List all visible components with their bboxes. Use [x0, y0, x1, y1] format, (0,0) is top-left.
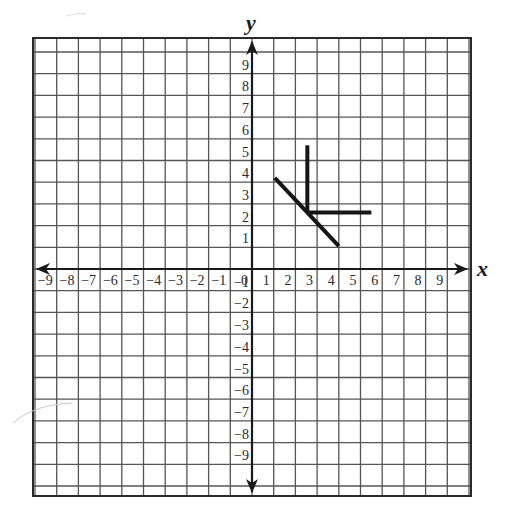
y-tick-label: 1 [242, 231, 249, 246]
pencil-mark [66, 14, 86, 16]
y-tick-label: 4 [242, 166, 249, 181]
x-tick-label: −9 [38, 273, 53, 288]
x-axis-label: x [476, 256, 488, 281]
pencil-stroke [13, 403, 72, 423]
y-tick-label: 8 [242, 79, 249, 94]
y-tick-label: −9 [234, 448, 249, 463]
y-tick-label: 6 [242, 123, 249, 138]
y-tick-label: −2 [234, 296, 249, 311]
y-tick-label: 5 [242, 145, 249, 160]
x-tick-label: −7 [81, 273, 96, 288]
x-tick-label: 3 [306, 273, 313, 288]
y-tick-label: −4 [234, 340, 249, 355]
x-tick-label: 1 [263, 273, 270, 288]
y-tick-label: −1 [234, 275, 249, 290]
y-tick-label: −8 [234, 427, 249, 442]
x-tick-label: −5 [125, 273, 140, 288]
x-tick-label: 2 [284, 273, 291, 288]
x-tick-label: 5 [350, 273, 357, 288]
x-tick-label: −2 [190, 273, 205, 288]
x-tick-label: 7 [393, 273, 400, 288]
x-tick-label: 6 [371, 273, 378, 288]
x-tick-label: 4 [328, 273, 335, 288]
x-tick-label: 9 [436, 273, 443, 288]
x-tick-label: −6 [103, 273, 118, 288]
x-tick-label: −4 [146, 273, 161, 288]
x-tick-label: −8 [59, 273, 74, 288]
y-tick-label: 2 [242, 210, 249, 225]
x-tick-label: 8 [415, 273, 422, 288]
y-tick-label: −7 [234, 405, 249, 420]
x-tick-label: −3 [168, 273, 183, 288]
y-tick-label: −3 [234, 318, 249, 333]
y-tick-label: 7 [242, 101, 249, 116]
y-tick-label: −5 [234, 362, 249, 377]
axes [36, 41, 468, 493]
x-tick-label: −1 [211, 273, 226, 288]
y-axis-label: y [243, 10, 256, 35]
y-tick-label: 3 [242, 188, 249, 203]
y-tick-label: −6 [234, 383, 249, 398]
coordinate-plane: −9−8−7−6−5−4−3−2−10123456789987654321−1−… [0, 0, 510, 528]
y-tick-label: 9 [242, 58, 249, 73]
